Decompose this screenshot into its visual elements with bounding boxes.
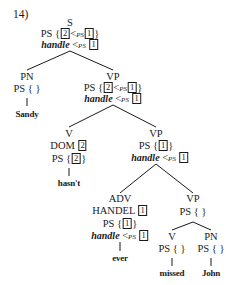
- index-box: 1: [90, 39, 98, 50]
- example-number: 14): [13, 8, 28, 20]
- node-vp2-ps: PS {1}: [139, 140, 174, 152]
- node-adv-category: ADV: [109, 193, 132, 205]
- node-vp3-ps: PS { }: [179, 206, 206, 218]
- node-vp2-handle: handle <PS 1: [131, 152, 189, 165]
- word-missed: missed: [160, 267, 185, 279]
- index-box: 1: [180, 152, 188, 163]
- node-s-handle: handle <PS 1: [41, 39, 99, 52]
- word-john: John: [202, 267, 220, 279]
- word-ever: ever: [112, 252, 128, 264]
- node-v1-ps: PS {2}: [52, 153, 87, 165]
- node-v1-dom: DOM 2: [50, 140, 87, 152]
- index-box: 1: [140, 230, 148, 241]
- index-box: 2: [61, 28, 69, 39]
- word-hasnt: hasn't: [58, 177, 80, 189]
- index-box: 2: [78, 140, 86, 151]
- node-adv-handel: HANDEL 1: [92, 205, 148, 217]
- index-box: 1: [128, 82, 136, 93]
- index-box: 2: [104, 82, 112, 93]
- node-vp1-handle: handle <PS 1: [84, 93, 142, 106]
- word-sandy: Sandy: [15, 108, 38, 120]
- node-pn2-category: PN: [204, 231, 217, 243]
- index-box: 1: [123, 218, 131, 229]
- index-box: 1: [85, 28, 93, 39]
- node-v1-category: V: [65, 128, 73, 140]
- index-box: 2: [72, 153, 80, 164]
- index-box: 1: [159, 140, 167, 151]
- node-adv-handle: handle <PS 1: [91, 230, 149, 243]
- node-pn2-ps: PS { }: [197, 243, 224, 255]
- node-vp3-category: VP: [186, 193, 199, 205]
- index-box: 1: [133, 93, 141, 104]
- node-pn-category: PN: [20, 71, 33, 83]
- index-box: 1: [139, 205, 147, 216]
- node-v2-ps: PS { }: [158, 243, 185, 255]
- syntax-tree: 14) S PS {2<PS1} handle <PS 1 PN PS { } …: [0, 0, 238, 285]
- node-vp2-category: VP: [149, 128, 162, 140]
- node-v2-category: V: [168, 231, 176, 243]
- node-pn-ps: PS { }: [13, 83, 40, 95]
- node-adv-ps: PS {1}: [103, 218, 138, 230]
